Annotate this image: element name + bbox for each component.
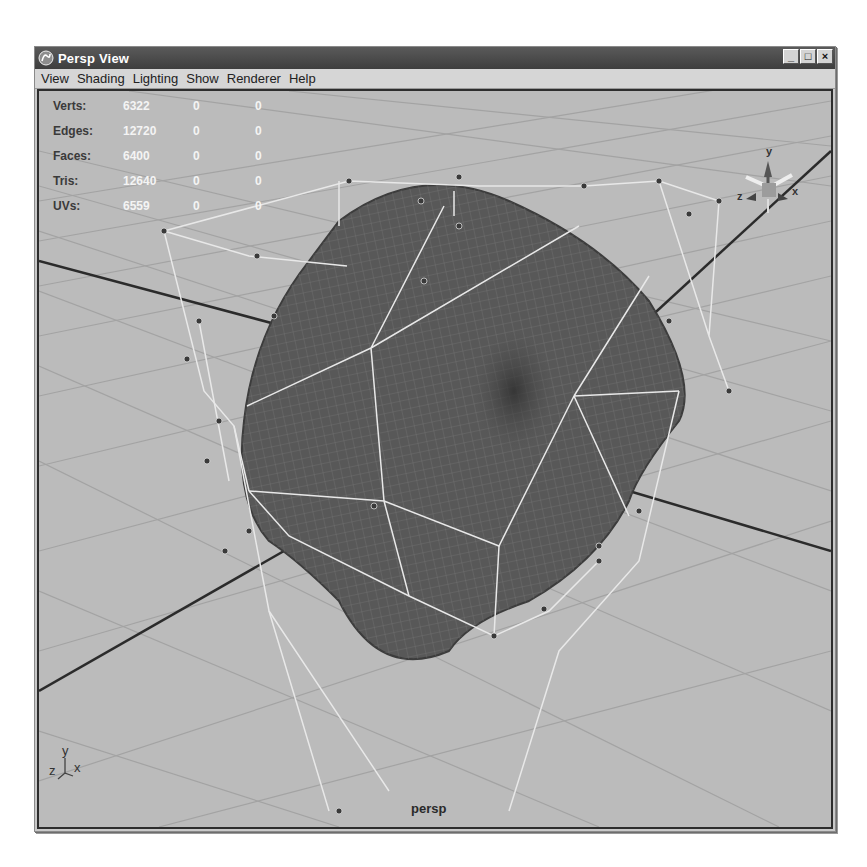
hud-value-extra: 0 <box>255 124 295 138</box>
menu-help[interactable]: Help <box>285 71 320 86</box>
maximize-button[interactable]: □ <box>800 49 816 64</box>
viewcube-x-label: x <box>792 185 799 197</box>
hud-value-total: 6322 <box>123 99 193 113</box>
viewcube-y-label: y <box>766 145 773 157</box>
hud-value-selected: 0 <box>193 199 255 213</box>
hud-value-selected: 0 <box>193 99 255 113</box>
minimize-icon: _ <box>788 51 794 62</box>
camera-name-label: persp <box>411 801 446 816</box>
hud-value-selected: 0 <box>193 124 255 138</box>
hud-value-extra: 0 <box>255 174 295 188</box>
menu-show[interactable]: Show <box>182 71 223 86</box>
menu-view[interactable]: View <box>37 71 73 86</box>
menu-lighting[interactable]: Lighting <box>129 71 183 86</box>
viewport-panel[interactable]: Verts: 6322 0 0 Edges: 12720 0 0 Faces: … <box>37 89 833 829</box>
window-title: Persp View <box>58 51 129 66</box>
menu-shading[interactable]: Shading <box>73 71 129 86</box>
axis-indicator-icon: y z x <box>47 741 97 786</box>
hud-label: Verts: <box>53 99 123 113</box>
persp-view-window: Persp View _ □ × View Shading Lighting S… <box>34 46 836 832</box>
menu-bar: View Shading Lighting Show Renderer Help <box>35 69 835 89</box>
hud-value-extra: 0 <box>255 99 295 113</box>
close-button[interactable]: × <box>817 49 833 64</box>
hud-value-total: 6559 <box>123 199 193 213</box>
hud-row-tris: Tris: 12640 0 0 <box>53 168 295 193</box>
menu-renderer[interactable]: Renderer <box>223 71 285 86</box>
hud-label: Edges: <box>53 124 123 138</box>
hud-row-uvs: UVs: 6559 0 0 <box>53 193 295 218</box>
hud-value-selected: 0 <box>193 149 255 163</box>
maximize-icon: □ <box>805 51 812 62</box>
hud-value-extra: 0 <box>255 199 295 213</box>
hud-value-total: 12720 <box>123 124 193 138</box>
close-icon: × <box>822 51 828 62</box>
axis-x-label: x <box>74 760 81 775</box>
viewcube-z-label: z <box>737 190 743 202</box>
poly-count-hud: Verts: 6322 0 0 Edges: 12720 0 0 Faces: … <box>53 93 295 218</box>
axis-z-label: z <box>49 763 56 778</box>
axis-y-label: y <box>62 743 69 758</box>
hud-row-verts: Verts: 6322 0 0 <box>53 93 295 118</box>
hud-label: Faces: <box>53 149 123 163</box>
hud-value-selected: 0 <box>193 174 255 188</box>
view-cube-icon[interactable]: y z x <box>734 143 804 223</box>
hud-value-total: 12640 <box>123 174 193 188</box>
hud-label: UVs: <box>53 199 123 213</box>
hud-label: Tris: <box>53 174 123 188</box>
hud-row-faces: Faces: 6400 0 0 <box>53 143 295 168</box>
maya-app-icon <box>38 50 54 66</box>
hud-value-extra: 0 <box>255 149 295 163</box>
hud-row-edges: Edges: 12720 0 0 <box>53 118 295 143</box>
title-bar[interactable]: Persp View _ □ × <box>35 47 835 69</box>
minimize-button[interactable]: _ <box>783 49 799 64</box>
hud-value-total: 6400 <box>123 149 193 163</box>
